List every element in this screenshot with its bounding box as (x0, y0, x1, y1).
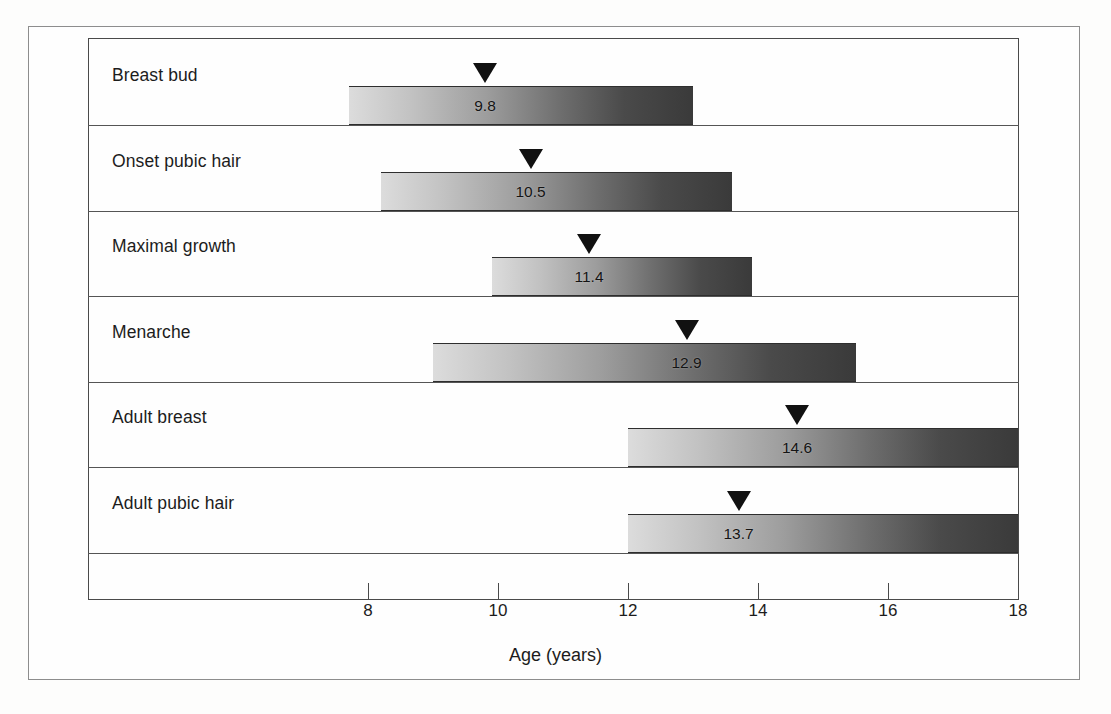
row-separator-line (88, 211, 1019, 212)
mean-marker-triangle-icon (727, 491, 751, 511)
figure-canvas: Breast bud9.8Onset pubic hair10.5Maximal… (0, 0, 1111, 714)
x-tick-label: 10 (489, 601, 508, 621)
row-separator-line (88, 382, 1019, 383)
bar-value-label: 12.9 (671, 354, 701, 372)
row-separator-line (88, 125, 1019, 126)
x-tick-label: 8 (363, 601, 372, 621)
x-tick-label: 12 (619, 601, 638, 621)
x-tick (368, 583, 369, 599)
row-label-onset-pubic-hair: Onset pubic hair (112, 151, 241, 172)
bar-value-label: 14.6 (782, 439, 812, 457)
row-separator-line (88, 467, 1019, 468)
range-bar (492, 257, 752, 296)
x-axis-title: Age (years) (0, 645, 1111, 666)
range-bar (433, 343, 856, 382)
x-tick (498, 583, 499, 599)
row-separator-line (88, 296, 1019, 297)
mean-marker-triangle-icon (785, 405, 809, 425)
x-tick (1018, 583, 1019, 599)
range-bar (349, 86, 694, 125)
row-label-maximal-growth: Maximal growth (112, 236, 236, 257)
range-bar (628, 428, 1018, 467)
bar-value-label: 9.8 (474, 97, 496, 115)
row-separator-line (88, 553, 1019, 554)
x-tick (628, 583, 629, 599)
bar-value-label: 10.5 (515, 183, 545, 201)
x-axis-line (88, 599, 1019, 600)
mean-marker-triangle-icon (473, 63, 497, 83)
x-tick-label: 18 (1009, 601, 1028, 621)
x-tick (758, 583, 759, 599)
row-label-breast-bud: Breast bud (112, 65, 198, 86)
bar-value-label: 11.4 (574, 268, 603, 286)
x-tick-label: 14 (749, 601, 768, 621)
x-tick-label: 16 (879, 601, 898, 621)
row-label-menarche: Menarche (112, 322, 191, 343)
mean-marker-triangle-icon (519, 149, 543, 169)
row-label-adult-breast: Adult breast (112, 407, 207, 428)
bar-value-label: 13.7 (723, 525, 753, 543)
mean-marker-triangle-icon (577, 234, 601, 254)
x-tick (888, 583, 889, 599)
range-bar (381, 172, 732, 211)
row-label-adult-pubic-hair: Adult pubic hair (112, 493, 234, 514)
range-bar (628, 514, 1018, 553)
mean-marker-triangle-icon (675, 320, 699, 340)
